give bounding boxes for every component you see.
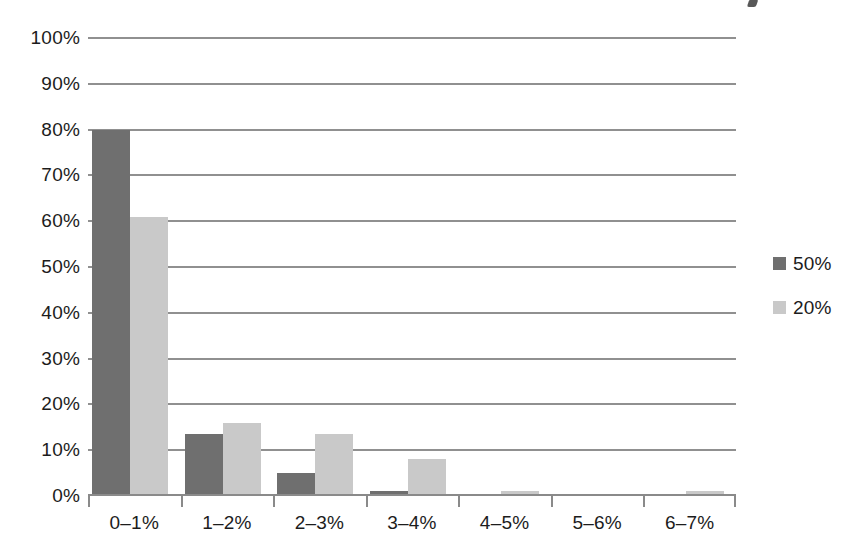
y-axis-tick-label: 60% [8, 211, 80, 230]
x-axis-category-label: 4–5% [458, 512, 551, 534]
y-axis-tick-label: 20% [8, 394, 80, 413]
x-axis-tick-start [88, 496, 90, 507]
x-axis-tick [273, 496, 275, 507]
y-axis-tick-label: 10% [8, 440, 80, 459]
chart-legend: 50%20% [773, 252, 832, 340]
y-axis-labels: 100%90%80%70%60%50%40%30%20%10%0% [0, 0, 80, 556]
bar [277, 473, 315, 496]
y-axis-tick-label: 30% [8, 349, 80, 368]
y-axis-tick-label: 100% [8, 28, 80, 47]
x-axis-tick [643, 496, 645, 507]
y-axis-tick-label: 0% [8, 486, 80, 505]
x-axis-category-label: 2–3% [273, 512, 366, 534]
x-axis-category-label: 0–1% [88, 512, 181, 534]
x-axis-tick [366, 496, 368, 507]
x-axis-category-label: 1–2% [181, 512, 274, 534]
y-axis-tick-label: 70% [8, 165, 80, 184]
x-axis-tick [551, 496, 553, 507]
bar [130, 217, 168, 496]
bar [185, 434, 223, 496]
cropped-title-artifact [747, 0, 758, 7]
bar-chart: 100%90%80%70%60%50%40%30%20%10%0% 0–1%1–… [0, 0, 845, 556]
bar [223, 423, 261, 496]
legend-label: 50% [793, 254, 832, 273]
y-axis-tick-label: 40% [8, 303, 80, 322]
bars-layer [88, 38, 736, 496]
legend-swatch-icon [773, 301, 786, 314]
x-axis-tick-end [734, 496, 736, 507]
x-axis-category-label: 5–6% [551, 512, 644, 534]
legend-item[interactable]: 50% [773, 252, 832, 274]
x-axis-category-label: 3–4% [366, 512, 459, 534]
legend-label: 20% [793, 298, 832, 317]
y-axis-tick-label: 50% [8, 257, 80, 276]
legend-swatch-icon [773, 257, 786, 270]
legend-item[interactable]: 20% [773, 296, 832, 318]
x-axis-line [88, 494, 736, 496]
bar [92, 130, 130, 496]
x-axis-tick [458, 496, 460, 507]
bar [408, 459, 446, 496]
x-axis-tick [181, 496, 183, 507]
y-axis-tick-label: 90% [8, 74, 80, 93]
y-axis-tick-label: 80% [8, 120, 80, 139]
bar [315, 434, 353, 496]
x-axis-category-label: 6–7% [643, 512, 736, 534]
